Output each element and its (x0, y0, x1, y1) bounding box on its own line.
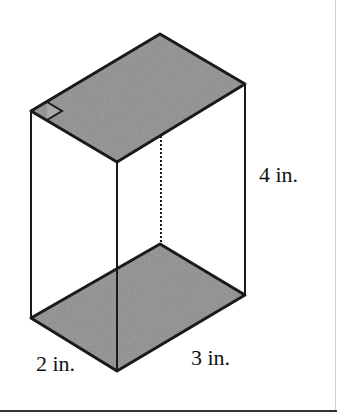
height-label: 4 in. (259, 164, 298, 186)
length-label: 3 in. (191, 347, 230, 369)
frame-border-right (335, 0, 336, 412)
top-face (31, 34, 245, 162)
width-label: 2 in. (36, 353, 75, 375)
frame-border-bottom (0, 410, 337, 412)
diagram-canvas: 4 in. 2 in. 3 in. (0, 0, 337, 414)
